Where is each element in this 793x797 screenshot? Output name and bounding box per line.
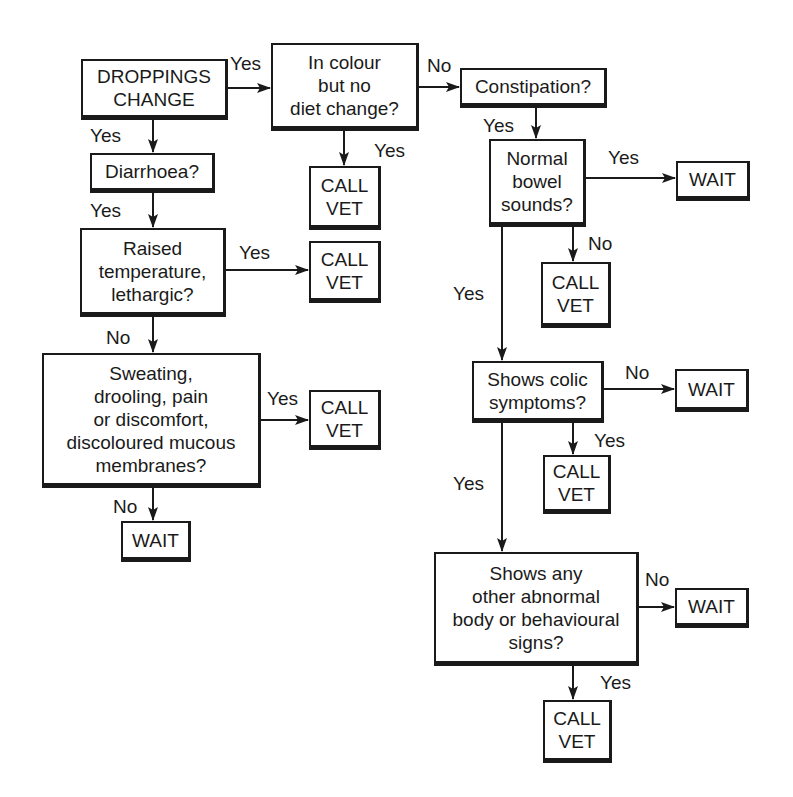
node-call-vet-bowel: CALL VET	[541, 262, 611, 328]
node-call-vet-other: CALL VET	[543, 700, 612, 763]
label-colic-to-other: Yes	[453, 474, 484, 494]
node-wait-colic: WAIT	[675, 369, 749, 412]
label-colic-to-vet: Yes	[594, 431, 625, 451]
node-wait-sweating: WAIT	[121, 521, 191, 562]
label-colic-to-wait: No	[625, 363, 649, 383]
label-diarrhoea-to-raised: Yes	[90, 201, 121, 221]
node-other-abnormal-signs: Shows any other abnormal body or behavio…	[434, 552, 639, 666]
label-raised-to-sweating: No	[106, 328, 130, 348]
node-colour-no-diet-change: In colour but no diet change?	[271, 43, 419, 131]
node-call-vet-raised: CALL VET	[309, 241, 381, 303]
label-sweating-to-wait: No	[113, 497, 137, 517]
flowchart-canvas: DROPPINGS CHANGE In colour but no diet c…	[0, 0, 793, 797]
node-shows-colic-symptoms: Shows colic symptoms?	[472, 361, 604, 423]
node-call-vet-colour: CALL VET	[309, 166, 381, 230]
label-bowel-to-vet: No	[588, 234, 612, 254]
label-other-to-vet: Yes	[600, 673, 631, 693]
node-diarrhoea: Diarrhoea?	[90, 153, 215, 193]
label-colour-to-vet: Yes	[374, 141, 405, 161]
label-other-to-wait: No	[645, 570, 669, 590]
node-sweating-drooling: Sweating, drooling, pain or discomfort, …	[42, 353, 261, 488]
label-bowel-to-colic: Yes	[453, 284, 484, 304]
node-droppings-change: DROPPINGS CHANGE	[81, 59, 228, 120]
node-call-vet-colic: CALL VET	[543, 455, 611, 514]
label-start-to-colour: Yes	[230, 54, 261, 74]
node-wait-bowel: WAIT	[676, 161, 750, 201]
label-start-to-diarrhoea: Yes	[90, 126, 121, 146]
node-normal-bowel-sounds: Normal bowel sounds?	[489, 139, 586, 227]
node-wait-other: WAIT	[675, 588, 749, 628]
label-raised-to-vet: Yes	[239, 243, 270, 263]
node-constipation: Constipation?	[460, 68, 607, 108]
label-constipation-to-bowel: Yes	[483, 116, 514, 136]
node-raised-temperature: Raised temperature, lethargic?	[80, 228, 226, 317]
label-sweating-to-vet: Yes	[267, 389, 298, 409]
node-call-vet-sweating: CALL VET	[309, 390, 381, 450]
label-bowel-to-wait: Yes	[608, 148, 639, 168]
label-colour-to-constipation: No	[427, 56, 451, 76]
